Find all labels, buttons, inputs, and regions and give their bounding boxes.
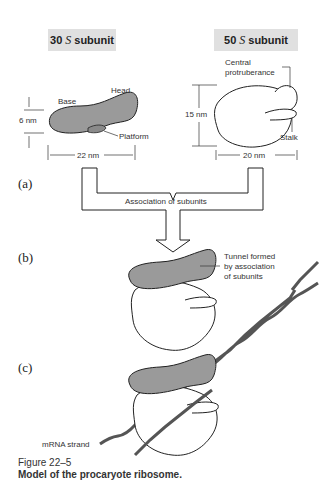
figure-title: Model of the procaryote ribosome. xyxy=(18,469,182,480)
header-30s-unit: S xyxy=(65,33,71,48)
label-tunnel-2: by association xyxy=(224,262,275,271)
panel-label-a: (a) xyxy=(18,176,32,192)
panel-label-c: (c) xyxy=(18,360,32,376)
label-head: Head xyxy=(111,86,130,95)
header-30s: 30Ssubunit xyxy=(48,29,116,51)
panel-label-b: (b) xyxy=(18,250,33,266)
label-association: Association of subunits xyxy=(125,197,207,206)
label-tunnel-3: of subunits xyxy=(224,272,263,281)
ribosome-diagram xyxy=(0,0,324,490)
label-central: Central xyxy=(225,58,251,67)
label-22nm: 22 nm xyxy=(77,151,99,160)
label-protruberance: protruberance xyxy=(225,68,275,77)
label-20nm: 20 nm xyxy=(243,151,265,160)
header-30s-number: 30 xyxy=(50,34,62,46)
label-15nm: 15 nm xyxy=(185,110,207,119)
label-6nm: 6 nm xyxy=(19,116,37,125)
label-tunnel-1: Tunnel formed xyxy=(224,252,275,261)
header-50s: 50Ssubunit xyxy=(214,29,298,51)
label-base: Base xyxy=(58,97,76,106)
figure-number: Figure 22–5 xyxy=(18,457,71,468)
header-50s-unit: S xyxy=(239,33,245,48)
assembled-ribosome-b xyxy=(129,250,220,351)
assembled-ribosome-c xyxy=(129,355,219,456)
header-30s-suffix: subunit xyxy=(74,34,114,46)
header-50s-suffix: subunit xyxy=(248,34,288,46)
label-mrna: mRNA strand xyxy=(42,440,90,449)
label-platform: Platform xyxy=(119,132,149,141)
label-stalk: Stalk xyxy=(280,133,298,142)
header-50s-number: 50 xyxy=(224,34,236,46)
